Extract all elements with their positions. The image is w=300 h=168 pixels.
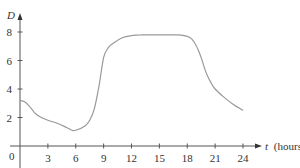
x-axis: 3691215182124 t (hours) [10, 140, 300, 164]
x-ticks: 3691215182124 [45, 144, 249, 165]
y-tick-label: 6 [7, 55, 13, 67]
y-axis: 2468 D [6, 9, 23, 168]
data-curve [20, 35, 243, 131]
x-tick-label: 6 [73, 152, 79, 164]
x-tick-label: 9 [101, 152, 107, 164]
x-axis-variable: t [265, 140, 269, 152]
y-tick-label: 4 [7, 83, 13, 95]
x-tick-label: 24 [238, 152, 250, 164]
x-axis-label: t (hours) [265, 140, 300, 153]
x-axis-arrow-icon [255, 144, 262, 149]
y-axis-label: D [6, 9, 15, 21]
x-tick-label: 21 [210, 152, 221, 164]
x-axis-unit: (hours) [274, 140, 300, 153]
x-tick-label: 12 [126, 152, 137, 164]
y-tick-label: 2 [7, 112, 13, 124]
x-tick-label: 3 [45, 152, 51, 164]
x-tick-label: 15 [154, 152, 166, 164]
origin-label: 0 [9, 150, 15, 162]
line-chart: 3691215182124 t (hours) 2468 D 0 [0, 0, 300, 168]
y-axis-arrow-icon [18, 13, 23, 20]
y-tick-label: 8 [7, 26, 13, 38]
x-tick-label: 18 [182, 152, 194, 164]
